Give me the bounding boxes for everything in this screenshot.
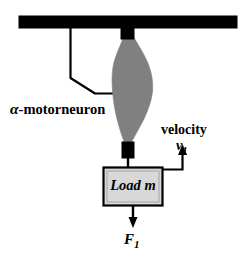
force-subscript: 1 — [134, 238, 140, 250]
alpha-motorneuron-label: α-motorneuron — [10, 101, 105, 117]
muscle-belly — [112, 36, 153, 143]
alpha-symbol: α — [10, 100, 19, 117]
upper-tendon — [121, 26, 134, 39]
velocity-symbol-label: v1 — [176, 139, 187, 156]
force-symbol: F — [124, 231, 134, 247]
velocity-label: velocity — [161, 123, 207, 137]
muscle-load-diagram: α-motorneuron velocity v1 Load m F1 — [0, 0, 244, 262]
force-arrowhead — [129, 217, 138, 228]
lower-tendon — [122, 142, 134, 158]
load-label: Load m — [110, 178, 156, 193]
velocity-subscript: 1 — [182, 145, 187, 156]
force-symbol-label: F1 — [124, 232, 140, 250]
diagram-canvas — [0, 0, 244, 262]
motorneuron-text: -motorneuron — [19, 101, 106, 117]
